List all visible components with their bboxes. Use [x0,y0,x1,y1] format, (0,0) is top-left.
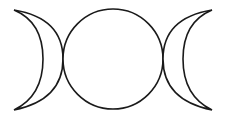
left-crescent-icon [14,10,63,110]
triple-moon-symbol [0,0,225,119]
right-crescent-icon [163,10,212,110]
full-moon-icon [63,9,163,109]
